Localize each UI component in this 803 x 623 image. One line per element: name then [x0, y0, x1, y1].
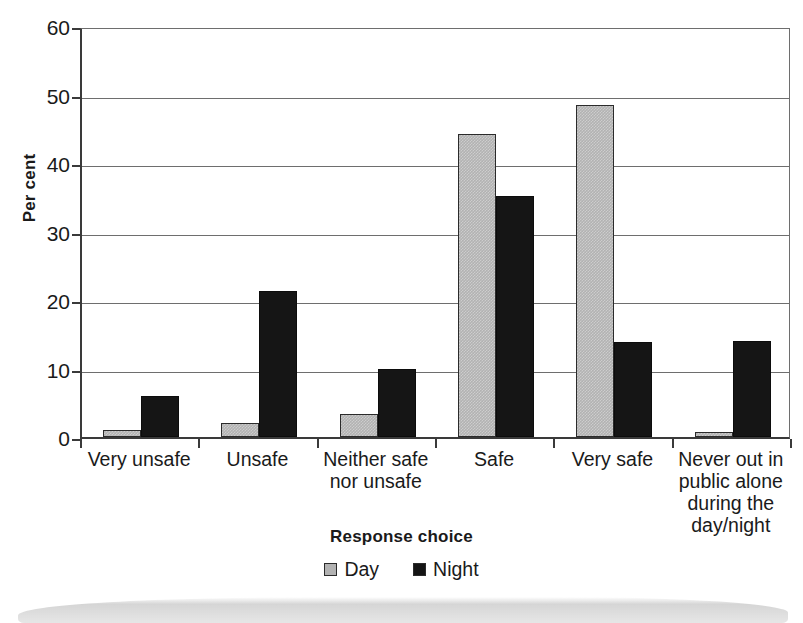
x-category-label: Very safe — [544, 448, 680, 470]
x-category-label-line: during the — [663, 492, 799, 514]
bar-night — [259, 291, 297, 437]
bar-night — [614, 342, 652, 437]
bar-group — [82, 29, 200, 437]
x-category-label-line: Safe — [426, 448, 562, 470]
x-category-label: Never out inpublic aloneduring theday/ni… — [663, 448, 799, 536]
x-category-label-line: nor unsafe — [308, 470, 444, 492]
x-tick-mark — [435, 439, 437, 448]
plot-area — [80, 28, 790, 439]
bar-group — [319, 29, 437, 437]
x-category-label-line: Very unsafe — [71, 448, 207, 470]
bar-group — [555, 29, 673, 437]
x-tick-mark — [790, 439, 792, 448]
y-tick-label: 60 — [24, 17, 70, 38]
x-category-label-line: public alone — [663, 470, 799, 492]
x-category-label: Unsafe — [189, 448, 325, 470]
bar-chart-figure: Per cent 0102030405060 Very unsafeUnsafe… — [0, 0, 803, 623]
scan-artifact — [18, 597, 788, 623]
legend-swatch-day — [324, 563, 337, 576]
bar-day — [458, 134, 496, 437]
legend-swatch-night — [413, 563, 426, 576]
x-category-label: Neither safenor unsafe — [308, 448, 444, 492]
x-category-label-line: Never out in — [663, 448, 799, 470]
x-category-label: Safe — [426, 448, 562, 470]
bar-day — [340, 414, 378, 437]
bar-group — [200, 29, 318, 437]
x-tick-mark — [553, 439, 555, 448]
bar-night — [141, 396, 179, 437]
bar-night — [496, 196, 534, 437]
x-category-label: Very unsafe — [71, 448, 207, 470]
x-tick-mark — [80, 439, 82, 448]
y-tick-label: 10 — [24, 360, 70, 381]
x-tick-mark — [672, 439, 674, 448]
y-tick-label: 40 — [24, 154, 70, 175]
bar-day — [695, 432, 733, 437]
legend-label: Day — [344, 558, 379, 581]
y-tick-label: 0 — [24, 428, 70, 449]
legend-item-day: Day — [324, 558, 379, 581]
bar-day — [576, 105, 614, 437]
legend-label: Night — [433, 558, 479, 581]
x-tick-mark — [198, 439, 200, 448]
bar-group — [674, 29, 792, 437]
y-tick-label: 30 — [24, 223, 70, 244]
legend-item-night: Night — [413, 558, 479, 581]
bar-group — [437, 29, 555, 437]
x-category-label-line: Very safe — [544, 448, 680, 470]
x-category-label-line: Unsafe — [189, 448, 325, 470]
y-tick-label: 20 — [24, 291, 70, 312]
bar-day — [221, 423, 259, 437]
x-tick-mark — [317, 439, 319, 448]
x-axis-title: Response choice — [0, 527, 803, 547]
bar-night — [378, 369, 416, 437]
bar-day — [103, 430, 141, 437]
bar-night — [733, 341, 771, 437]
x-category-label-line: Neither safe — [308, 448, 444, 470]
y-tick-label: 50 — [24, 86, 70, 107]
chart-legend: DayNight — [0, 558, 803, 581]
